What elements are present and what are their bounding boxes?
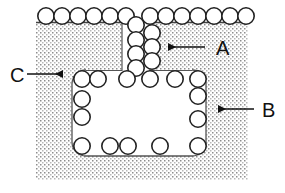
circle bbox=[190, 111, 206, 127]
circle-row-top-right bbox=[142, 8, 254, 24]
callout-a-label: A bbox=[216, 37, 230, 59]
circle bbox=[102, 138, 118, 154]
circle bbox=[38, 8, 54, 24]
circle-row-cavity-bottom bbox=[102, 138, 168, 154]
circle bbox=[190, 71, 206, 87]
circle-row-top-left bbox=[38, 8, 134, 24]
circle bbox=[54, 8, 70, 24]
circle bbox=[152, 138, 168, 154]
circle-column-channel-left bbox=[119, 17, 144, 87]
circle bbox=[74, 91, 90, 107]
circle bbox=[158, 8, 174, 24]
callout-b-label: B bbox=[262, 99, 275, 121]
circle bbox=[238, 8, 254, 24]
circle bbox=[206, 8, 222, 24]
circle bbox=[70, 8, 86, 24]
circle bbox=[74, 138, 90, 154]
circle bbox=[142, 71, 158, 87]
circle bbox=[74, 71, 90, 87]
circle bbox=[90, 71, 106, 87]
schematic-diagram: A B C bbox=[0, 0, 285, 193]
circle bbox=[144, 53, 160, 69]
circle bbox=[174, 8, 190, 24]
callout-c-label: C bbox=[10, 64, 24, 86]
circle bbox=[128, 17, 144, 33]
circle bbox=[86, 8, 102, 24]
circle-column-cavity-right bbox=[190, 71, 206, 154]
circle bbox=[119, 71, 135, 87]
circle bbox=[190, 138, 206, 154]
circle bbox=[102, 8, 118, 24]
circle bbox=[190, 88, 206, 104]
circle bbox=[120, 138, 136, 154]
figure-root: A B C bbox=[0, 0, 285, 193]
circle-column-cavity-left bbox=[74, 91, 90, 154]
circle-column-channel-right bbox=[142, 25, 160, 87]
circle bbox=[167, 71, 183, 87]
circle bbox=[74, 109, 90, 125]
circle bbox=[190, 8, 206, 24]
circle bbox=[222, 8, 238, 24]
